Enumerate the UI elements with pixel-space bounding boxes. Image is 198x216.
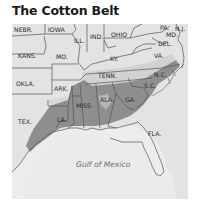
- water-label-gulf-of-mexico: Gulf of Mexico: [76, 160, 131, 169]
- state-label-ala: ALA.: [100, 96, 114, 103]
- state-label-ga: GA.: [125, 96, 136, 103]
- state-label-nc: N.C.: [154, 71, 167, 78]
- state-label-del: DEL.: [158, 40, 172, 47]
- state-label-va: VA.: [154, 52, 164, 59]
- state-label-nebr: NEBR.: [14, 26, 33, 33]
- state-label-miss: MISS.: [76, 102, 93, 109]
- state-label-pa: PA.: [160, 24, 169, 31]
- state-label-ill: ILL.: [74, 37, 85, 44]
- state-label-ind: IND.: [90, 33, 103, 40]
- state-label-kans: KANS.: [18, 52, 37, 59]
- state-label-fla: FLA.: [148, 130, 161, 137]
- state-label-iowa: IOWA: [48, 26, 65, 33]
- state-label-ky: KY.: [110, 55, 118, 62]
- state-label-tenn: TENN.: [97, 72, 117, 79]
- state-label-okla: OKLA.: [16, 80, 35, 87]
- state-label-ark: ARK.: [54, 85, 69, 92]
- state-label-sc: S.C.: [144, 82, 156, 89]
- state-label-la: LA.: [57, 116, 67, 123]
- state-label-tex: TEX.: [17, 118, 32, 125]
- state-label-ohio: OHIO: [111, 31, 127, 38]
- map-canvas: NEBR. IOWA ILL. IND. OHIO PA. N.J. MD. D…: [12, 24, 188, 199]
- state-label-mo: MO.: [56, 53, 68, 60]
- cotton-belt-map: NEBR. IOWA ILL. IND. OHIO PA. N.J. MD. D…: [12, 24, 188, 199]
- map-title: The Cotton Belt: [12, 3, 119, 18]
- state-label-md: MD.: [166, 31, 178, 38]
